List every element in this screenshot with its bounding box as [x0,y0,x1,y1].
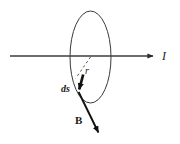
radius-label: r [85,66,89,76]
physics-figure: I r ds B [0,0,180,144]
current-label: I [162,50,166,62]
figure-canvas [0,0,180,144]
magnetic-field-label: B [75,115,82,126]
line-element-label: ds [61,84,70,94]
ds-vector [79,75,83,90]
b-field-vector [79,92,99,133]
